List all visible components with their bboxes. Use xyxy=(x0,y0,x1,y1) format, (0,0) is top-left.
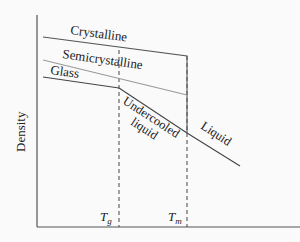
tg-label: Tg xyxy=(100,209,112,226)
tm-label: Tm xyxy=(168,209,182,226)
liquid-label: Liquid xyxy=(198,119,234,149)
density-temperature-diagram: Crystalline Semicrystalline Glass Underc… xyxy=(0,0,300,242)
crystalline-label: Crystalline xyxy=(70,22,129,44)
y-axis-label: Density xyxy=(13,111,28,152)
glass-line xyxy=(43,77,119,88)
